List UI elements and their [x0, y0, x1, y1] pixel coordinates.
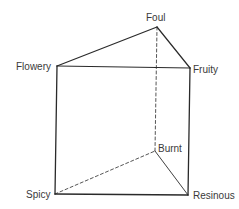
vertex-label-resinous: Resinous — [193, 190, 235, 202]
vertex-label-spicy: Spicy — [26, 189, 50, 201]
edges — [55, 27, 190, 195]
edge-foul-fruity — [157, 27, 190, 68]
vertex-label-fruity: Fruity — [193, 64, 218, 76]
edge-foul-flowery — [57, 27, 157, 66]
vertex-label-burnt: Burnt — [158, 143, 182, 155]
edge-flowery-fruity — [57, 66, 190, 68]
edge-fruity-resinous — [188, 68, 190, 195]
edge-foul-burnt-hidden — [155, 27, 157, 151]
edge-flowery-spicy — [55, 66, 57, 194]
vertex-label-flowery: Flowery — [16, 61, 51, 73]
vertex-label-foul: Foul — [146, 12, 165, 24]
edge-burnt-resinous — [155, 151, 188, 195]
odour-prism-diagram — [0, 0, 239, 209]
edge-spicy-burnt-hidden — [55, 151, 155, 194]
edge-spicy-resinous — [55, 194, 188, 195]
